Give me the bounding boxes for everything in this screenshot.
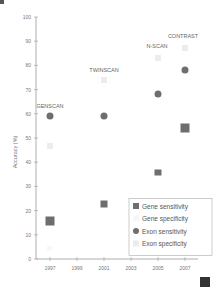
- point: [182, 45, 188, 51]
- x-tick-2007: 2007: [179, 265, 190, 271]
- y-tick-10: 10: [25, 232, 31, 238]
- point: [47, 113, 54, 120]
- x-tick-2001: 2001: [98, 265, 109, 271]
- y-tick-100: 100: [23, 14, 32, 20]
- series-exon-specificity: [47, 45, 188, 149]
- annotation-genscan: GENSCAN: [36, 103, 63, 109]
- point: [182, 67, 189, 74]
- legend-swatch-gene-sensitivity: [133, 203, 139, 209]
- legend-label-exon-sensitivity: Exon sensitivity: [142, 228, 188, 236]
- corner-badge-icon: [200, 277, 210, 287]
- series-exon-sensitivity: [47, 67, 189, 120]
- point: [181, 124, 190, 133]
- point: [46, 217, 55, 226]
- y-tick-30: 30: [25, 183, 31, 189]
- legend-swatch-exon-sensitivity: [133, 228, 139, 234]
- y-tick-20: 20: [25, 208, 31, 214]
- legend-swatch-exon-specificity: [133, 241, 139, 247]
- y-tick-50: 50: [25, 135, 31, 141]
- point: [47, 246, 52, 251]
- annotation-contrast: CONTRAST: [168, 33, 199, 39]
- y-axis-title: Accuracy (%): [12, 135, 18, 168]
- point: [155, 55, 161, 61]
- point: [155, 91, 162, 98]
- x-tick-1997: 1997: [44, 265, 55, 271]
- point: [101, 113, 108, 120]
- point: [47, 143, 53, 149]
- annotation-twinscan: TWINSCAN: [89, 67, 118, 73]
- y-tick-80: 80: [25, 62, 31, 68]
- x-tick-labels: 1997 1999 2001 2003 2005 2007: [44, 265, 190, 271]
- series-gene-specificity: [47, 246, 52, 251]
- point: [101, 201, 108, 208]
- legend-label-exon-specificity: Exon specificity: [142, 240, 188, 248]
- x-tick-2005: 2005: [152, 265, 163, 271]
- y-tick-40: 40: [25, 159, 31, 165]
- point: [155, 170, 162, 176]
- legend-label-gene-specificity: Gene specificity: [142, 215, 189, 223]
- legend-swatch-gene-specificity: [133, 216, 139, 222]
- y-tick-labels: 0 10 20 30 40 50 60 70 80 90 100: [23, 14, 32, 262]
- point: [101, 77, 107, 83]
- y-tick-70: 70: [25, 87, 31, 93]
- annotation-nscan: N-SCAN: [146, 43, 167, 49]
- legend: Gene sensitivity Gene specificity Exon s…: [129, 199, 212, 256]
- accuracy-chart: 0 10 20 30 40 50 60 70 80 90 100 Accurac…: [0, 0, 216, 294]
- legend-label-gene-sensitivity: Gene sensitivity: [142, 203, 189, 211]
- y-tick-90: 90: [25, 38, 31, 44]
- x-tick-2003: 2003: [125, 265, 136, 271]
- x-tick-1999: 1999: [71, 265, 82, 271]
- y-tick-60: 60: [25, 111, 31, 117]
- y-tick-0: 0: [28, 256, 31, 262]
